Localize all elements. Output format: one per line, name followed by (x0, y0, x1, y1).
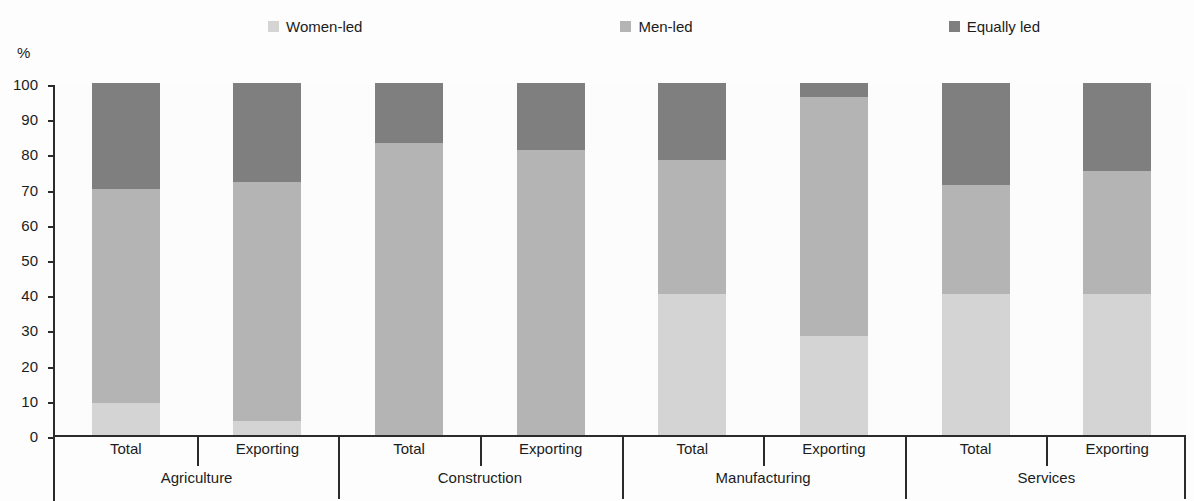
x-axis-sublabel-manufacturing-exporting: Exporting (763, 440, 905, 457)
y-axis-tick-label: 90 (0, 111, 38, 128)
bar-segment-equally-led[interactable] (800, 83, 868, 97)
y-axis-tick (48, 296, 55, 298)
x-axis-subdivider (1046, 437, 1048, 466)
x-axis-sublabel-construction-exporting: Exporting (480, 440, 622, 457)
y-axis-tick (48, 226, 55, 228)
x-axis-group-label-manufacturing: Manufacturing (622, 469, 905, 486)
y-axis-tick (48, 85, 55, 87)
legend-label-equally-led: Equally led (967, 18, 1040, 35)
y-axis-unit-label: % (17, 44, 30, 61)
bar-segment-equally-led[interactable] (517, 83, 585, 150)
legend-item-men-led[interactable]: Men-led (620, 18, 692, 35)
x-axis-group-label-services: Services (905, 469, 1188, 486)
y-axis-tick (48, 120, 55, 122)
bar-segment-men-led[interactable] (233, 182, 301, 421)
bar-segment-men-led[interactable] (92, 189, 160, 404)
bar-segment-equally-led[interactable] (942, 83, 1010, 185)
y-axis-tick-label: 80 (0, 146, 38, 163)
bar-segment-men-led[interactable] (658, 160, 726, 294)
legend-label-women-led: Women-led (286, 18, 362, 35)
x-axis-sublabel-manufacturing-total: Total (622, 440, 764, 457)
x-axis-group-divider (905, 437, 907, 499)
legend-swatch-men-led (620, 21, 631, 32)
bar-segment-men-led[interactable] (800, 97, 868, 336)
y-axis-tick (48, 331, 55, 333)
bar-segment-equally-led[interactable] (233, 83, 301, 182)
bar-segment-equally-led[interactable] (92, 83, 160, 189)
bar-segment-equally-led[interactable] (658, 83, 726, 160)
bar-manufacturing-total[interactable] (658, 83, 726, 435)
y-axis-tick (48, 402, 55, 404)
bar-construction-total[interactable] (375, 83, 443, 435)
x-axis-sublabel-services-total: Total (905, 440, 1047, 457)
bar-services-exporting[interactable] (1083, 83, 1151, 435)
bar-segment-men-led[interactable] (375, 143, 443, 435)
y-axis-tick-label: 70 (0, 182, 38, 199)
x-axis-group-label-agriculture: Agriculture (55, 469, 338, 486)
legend-label-men-led: Men-led (638, 18, 692, 35)
x-axis-sublabel-agriculture-exporting: Exporting (197, 440, 339, 457)
y-axis-tick (48, 191, 55, 193)
x-axis-sublabel-agriculture-total: Total (55, 440, 197, 457)
y-axis-tick-label: 30 (0, 322, 38, 339)
bar-services-total[interactable] (942, 83, 1010, 435)
x-axis-sublabel-services-exporting: Exporting (1046, 440, 1188, 457)
bar-agriculture-total[interactable] (92, 83, 160, 435)
legend-item-women-led[interactable]: Women-led (268, 18, 362, 35)
bar-segment-men-led[interactable] (1083, 171, 1151, 294)
category-axis: TotalExportingTotalExportingTotalExporti… (53, 437, 1186, 501)
y-axis-tick-label: 10 (0, 393, 38, 410)
bar-segment-women-led[interactable] (92, 403, 160, 435)
x-axis-subdivider (197, 437, 199, 466)
bar-segment-men-led[interactable] (942, 185, 1010, 294)
bar-segment-women-led[interactable] (658, 294, 726, 435)
x-axis-group-label-construction: Construction (338, 469, 621, 486)
y-axis-tick-label: 60 (0, 217, 38, 234)
x-axis-subdivider (763, 437, 765, 466)
y-axis-tick (48, 367, 55, 369)
stacked-bar-chart: Women-led Men-led Equally led % 01020304… (0, 0, 1194, 501)
x-axis-group-divider (622, 437, 624, 499)
legend-item-equally-led[interactable]: Equally led (949, 18, 1040, 35)
x-axis-sublabel-construction-total: Total (338, 440, 480, 457)
bar-segment-women-led[interactable] (800, 336, 868, 435)
chart-legend: Women-led Men-led Equally led (0, 14, 1194, 38)
bar-segment-men-led[interactable] (517, 150, 585, 435)
y-axis-tick (48, 155, 55, 157)
x-axis-group-divider (338, 437, 340, 499)
y-axis-tick-label: 50 (0, 252, 38, 269)
y-axis-tick-label: 20 (0, 358, 38, 375)
bar-manufacturing-exporting[interactable] (800, 83, 868, 435)
y-axis-tick (48, 261, 55, 263)
bar-segment-women-led[interactable] (233, 421, 301, 435)
y-axis-tick-label: 0 (0, 428, 38, 445)
y-axis-tick-label: 100 (0, 76, 38, 93)
bar-segment-equally-led[interactable] (375, 83, 443, 143)
x-axis-subdivider (480, 437, 482, 466)
bar-construction-exporting[interactable] (517, 83, 585, 435)
legend-swatch-equally-led (949, 21, 960, 32)
bar-agriculture-exporting[interactable] (233, 83, 301, 435)
y-axis-tick-label: 40 (0, 287, 38, 304)
legend-swatch-women-led (268, 21, 279, 32)
bar-segment-women-led[interactable] (1083, 294, 1151, 435)
plot-area: 0102030405060708090100 (53, 85, 1186, 437)
bar-segment-equally-led[interactable] (1083, 83, 1151, 171)
bar-segment-women-led[interactable] (942, 294, 1010, 435)
